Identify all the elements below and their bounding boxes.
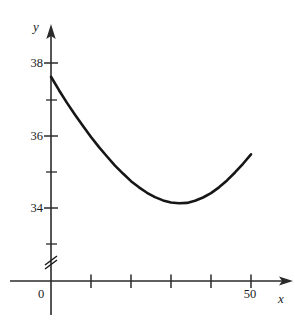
plot-canvas	[0, 0, 295, 330]
y-tick-label-34: 34	[21, 202, 43, 215]
y-tick-label-36: 36	[21, 130, 43, 143]
y-tick-label-38: 38	[21, 57, 43, 70]
x-tick-label-50: 50	[238, 288, 262, 301]
x-axis-name-label: x	[278, 292, 284, 305]
graph-figure: y x 38 36 34 0 50	[0, 0, 295, 330]
y-axis-name-label: y	[33, 20, 39, 33]
origin-label: 0	[33, 288, 49, 301]
data-curve	[51, 77, 251, 204]
